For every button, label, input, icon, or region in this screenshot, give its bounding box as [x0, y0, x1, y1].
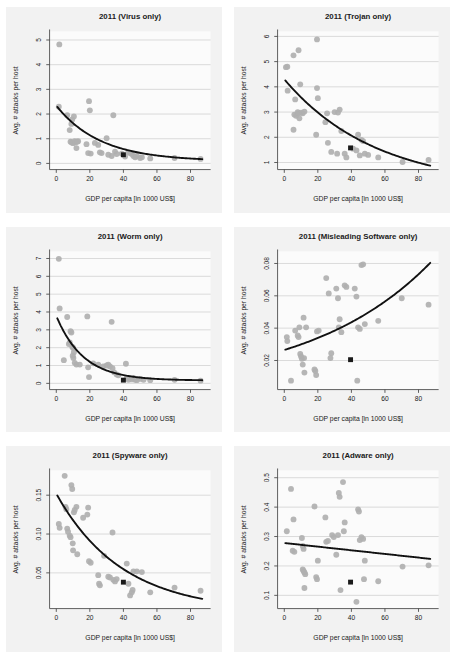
data-point	[340, 480, 346, 486]
data-point	[84, 313, 90, 319]
x-axis-label: GDP per capita [in 1000 US$]	[313, 415, 403, 423]
data-point	[322, 515, 328, 521]
y-tick-label: 3	[263, 110, 270, 114]
data-point	[84, 512, 90, 518]
x-tick-label: 60	[153, 175, 161, 182]
data-point	[124, 561, 130, 567]
data-point	[357, 326, 363, 332]
data-point	[353, 148, 359, 154]
y-tick-label: 3	[35, 87, 42, 91]
chart-svg-virus: 0123450204060802011 (Virus only)GDP per …	[6, 7, 222, 213]
y-axis-label: Avg. # attacks per host	[12, 66, 20, 134]
data-point	[328, 149, 334, 155]
y-tick-label: 0.08	[263, 256, 270, 269]
plot-area-worm	[50, 251, 211, 389]
y-axis-label: Avg. # attacks per host	[240, 286, 248, 354]
data-point	[365, 152, 371, 158]
data-point	[71, 114, 77, 120]
data-point	[61, 357, 67, 363]
figure-panel-grid: 0123450204060802011 (Virus only)GDP per …	[0, 0, 456, 659]
data-point	[73, 504, 79, 510]
data-point	[335, 295, 341, 301]
data-point	[333, 552, 339, 558]
x-tick-label: 0	[282, 175, 286, 182]
data-point	[400, 564, 406, 570]
x-tick-label: 60	[381, 175, 389, 182]
data-point	[301, 369, 307, 375]
x-tick-label: 80	[415, 615, 423, 622]
x-tick-label: 80	[187, 395, 195, 402]
panel-background-worm: 012345670204060802011 (Worm only)GDP per…	[6, 227, 222, 433]
data-point	[84, 141, 90, 147]
data-point	[95, 142, 101, 148]
data-point	[302, 572, 308, 578]
x-tick-label: 80	[187, 615, 195, 622]
data-point	[139, 570, 145, 576]
panel-title: 2011 (Virus only)	[99, 12, 162, 21]
data-point	[313, 372, 319, 378]
y-tick-label: 5	[35, 292, 42, 296]
chart-panel-spyware: 0.050.100.150204060802011 (Spyware only)…	[0, 439, 228, 659]
data-point	[312, 504, 318, 510]
x-axis-label: GDP per capita [in 1000 US$]	[85, 195, 175, 203]
data-point	[314, 85, 320, 91]
x-axis-label: GDP per capita [in 1000 US$]	[313, 195, 403, 203]
data-point	[375, 155, 381, 161]
data-point	[353, 293, 359, 299]
data-point	[357, 153, 363, 159]
y-tick-label: 1	[35, 363, 42, 367]
x-tick-label: 40	[120, 615, 128, 622]
y-tick-label: 3	[35, 327, 42, 331]
data-point	[57, 525, 63, 531]
data-point	[130, 587, 136, 593]
data-point	[296, 47, 302, 53]
y-tick-label: 6	[35, 274, 42, 278]
highlight-marker	[348, 145, 353, 150]
data-point	[353, 599, 359, 605]
y-tick-label: 2	[263, 135, 270, 139]
data-point	[114, 577, 120, 583]
y-tick-label: 0	[35, 161, 42, 165]
data-point	[123, 360, 129, 366]
data-point	[325, 140, 331, 146]
data-point	[337, 316, 343, 322]
data-point	[67, 127, 73, 133]
highlight-marker	[348, 357, 353, 362]
data-point	[86, 374, 92, 380]
data-point	[284, 529, 290, 535]
y-tick-label: 7	[35, 256, 42, 260]
data-point	[426, 301, 432, 307]
data-point	[198, 588, 204, 594]
data-point	[125, 581, 131, 587]
data-point	[291, 517, 297, 523]
data-point	[95, 573, 101, 579]
data-point	[68, 329, 74, 335]
data-point	[361, 577, 367, 583]
data-point	[324, 110, 330, 116]
data-point	[426, 563, 432, 569]
x-tick-label: 20	[314, 395, 322, 402]
data-point	[284, 338, 290, 344]
data-point	[291, 549, 297, 555]
y-tick-label: 4	[35, 63, 42, 67]
highlight-marker	[121, 377, 126, 382]
y-axis-label: Avg. # attacks per host	[240, 506, 248, 574]
data-point	[334, 151, 340, 157]
y-tick-label: 6	[263, 34, 270, 38]
data-point	[316, 327, 322, 333]
x-axis-label: GDP per capita [in 1000 US$]	[85, 415, 175, 423]
data-point	[343, 155, 349, 161]
panel-background-virus: 0123450204060802011 (Virus only)GDP per …	[6, 7, 222, 213]
chart-panel-adware: 0.10.20.30.40.50204060802011 (Adware onl…	[228, 439, 456, 659]
panel-background-spyware: 0.050.100.150204060802011 (Spyware only)…	[6, 446, 222, 652]
highlight-marker	[121, 580, 126, 585]
y-tick-label: 4	[263, 85, 270, 89]
chart-svg-adware: 0.10.20.30.40.50204060802011 (Adware onl…	[234, 446, 450, 652]
data-point	[70, 541, 76, 547]
data-point	[342, 520, 348, 526]
data-point	[314, 37, 320, 43]
x-tick-label: 20	[86, 175, 94, 182]
x-tick-label: 20	[314, 615, 322, 622]
panel-background-trojan: 1234560204060802011 (Trojan only)GDP per…	[234, 7, 450, 213]
data-point	[88, 151, 94, 157]
